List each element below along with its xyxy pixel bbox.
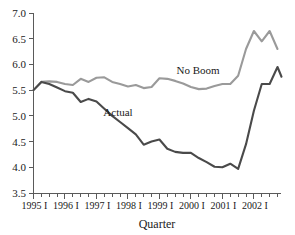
series-label-actual: Actual xyxy=(103,106,132,118)
x-axis-title: Quarter xyxy=(139,217,176,231)
data-series-group xyxy=(34,31,282,169)
x-tick-label: 2000 I xyxy=(179,200,205,211)
series-line-no-boom xyxy=(34,31,278,90)
line-chart: 3.54.04.55.05.56.06.57.0 1995 I1996 I199… xyxy=(0,0,295,235)
y-tick-label: 7.0 xyxy=(12,7,26,19)
y-axis-tick-labels: 3.54.04.55.05.56.06.57.0 xyxy=(12,7,26,199)
y-tick-label: 4.5 xyxy=(12,136,26,148)
x-tick-label: 2002 I xyxy=(242,200,268,211)
y-tick-label: 3.5 xyxy=(12,187,26,199)
y-tick-label: 5.0 xyxy=(12,110,26,122)
x-tick-label: 2001 I xyxy=(210,200,236,211)
x-axis: 1995 I1996 I1997 I1998 I1999 I2000 I2001… xyxy=(22,194,281,212)
y-axis-ticks xyxy=(29,13,34,193)
series-annotations: No BoomActual xyxy=(103,64,220,118)
x-axis-tick-labels: 1995 I1996 I1997 I1998 I1999 I2000 I2001… xyxy=(22,200,268,211)
series-line-actual xyxy=(34,67,282,169)
x-tick-label: 1999 I xyxy=(148,200,174,211)
x-tick-label: 1998 I xyxy=(116,200,142,211)
y-tick-label: 5.5 xyxy=(12,84,26,96)
x-tick-label: 1997 I xyxy=(85,200,111,211)
x-tick-label: 1996 I xyxy=(53,200,79,211)
y-tick-label: 6.5 xyxy=(12,33,26,45)
chart-container: 3.54.04.55.05.56.06.57.0 1995 I1996 I199… xyxy=(0,0,295,235)
y-tick-label: 6.0 xyxy=(12,58,26,70)
x-tick-label: 1995 I xyxy=(22,200,48,211)
y-axis: 3.54.04.55.05.56.06.57.0 xyxy=(12,7,33,199)
series-label-no-boom: No Boom xyxy=(176,64,220,76)
x-axis-ticks xyxy=(34,194,278,199)
y-tick-label: 4.0 xyxy=(12,161,26,173)
